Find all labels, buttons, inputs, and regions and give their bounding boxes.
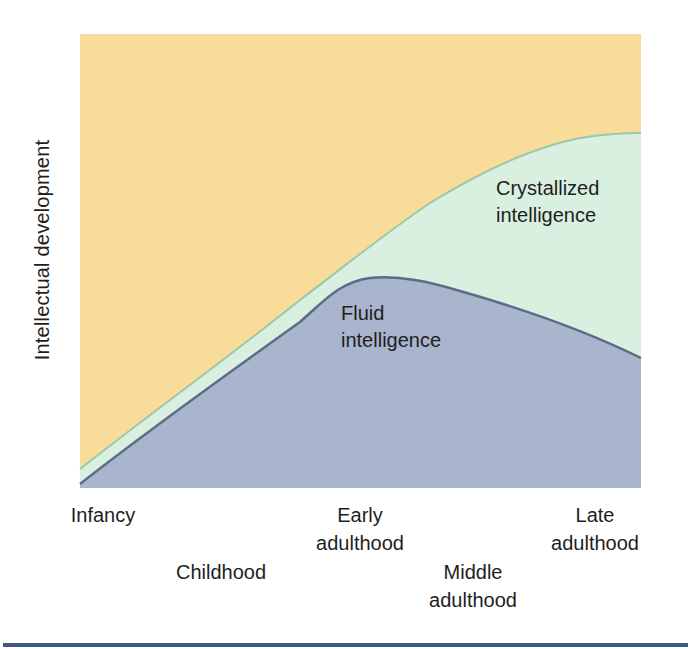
x-tick-label-line1: Late (551, 501, 639, 529)
x-tick-late-adulthood: Late adulthood (551, 501, 639, 557)
x-tick-early-adulthood: Early adulthood (316, 501, 404, 557)
fluid-intelligence-label: Fluid intelligence (341, 300, 441, 354)
y-axis-label: Intellectual development (31, 140, 54, 361)
cropped-title-fragment (0, 0, 240, 3)
crystallized-intelligence-label: Crystallized intelligence (496, 175, 599, 229)
x-tick-label-line1: Early (316, 501, 404, 529)
x-tick-label: Infancy (71, 501, 135, 529)
fluid-label-line1: Fluid (341, 300, 441, 327)
x-tick-childhood: Childhood (176, 558, 266, 586)
x-tick-label: Childhood (176, 558, 266, 586)
fluid-label-line2: intelligence (341, 327, 441, 354)
x-tick-label-line2: adulthood (316, 529, 404, 557)
x-tick-label-line2: adulthood (429, 586, 517, 614)
x-tick-label-line1: Middle (429, 558, 517, 586)
x-tick-middle-adulthood: Middle adulthood (429, 558, 517, 614)
x-tick-label-line2: adulthood (551, 529, 639, 557)
x-tick-infancy: Infancy (71, 501, 135, 529)
bottom-divider-rule (3, 643, 688, 647)
crystallized-label-line1: Crystallized (496, 175, 599, 202)
crystallized-label-line2: intelligence (496, 202, 599, 229)
